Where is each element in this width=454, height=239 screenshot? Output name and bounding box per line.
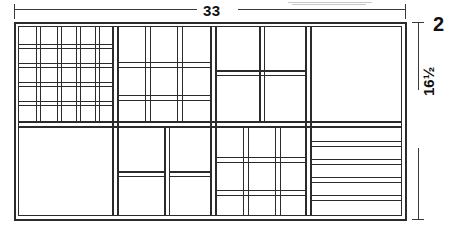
technical-drawing-canvas: 33 2 16½ bbox=[0, 0, 454, 239]
height-dimension-group bbox=[412, 24, 424, 220]
scan-artifact bbox=[288, 2, 372, 4]
major-dividers bbox=[18, 26, 402, 216]
section-bottom-right-strips bbox=[311, 141, 402, 201]
height-dimension-label: 16½ bbox=[421, 67, 436, 96]
section-top-left-fine-grid bbox=[18, 26, 112, 121]
width-dimension-label: 33 bbox=[203, 3, 221, 18]
section-bottom-second-pair bbox=[118, 127, 211, 216]
divider-h-mid-a bbox=[18, 121, 402, 123]
depth-dimension-label: 2 bbox=[433, 14, 444, 34]
section-top-third-quad bbox=[216, 26, 306, 121]
section-top-second-medium-grid bbox=[118, 26, 211, 121]
tray-plan-svg bbox=[0, 0, 454, 239]
divider-h-mid-b bbox=[18, 126, 402, 128]
section-bottom-third-grid bbox=[216, 127, 306, 216]
